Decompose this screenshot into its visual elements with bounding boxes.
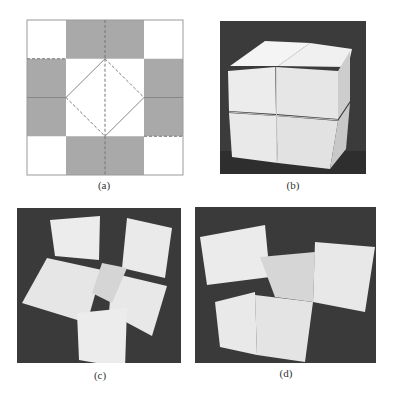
shaded-cell: [144, 59, 183, 98]
cube: [50, 216, 100, 260]
mountain-fold: [105, 98, 144, 137]
photo-closed-cube: [220, 21, 366, 174]
panel-b-photo: [220, 21, 366, 174]
shaded-cell: [66, 136, 105, 175]
panel-c-label: (c): [80, 369, 120, 381]
panel-a-label: (a): [84, 179, 124, 191]
crease-pattern: [26, 19, 184, 176]
valley-fold: [66, 98, 105, 137]
shaded-cell: [27, 59, 66, 98]
panel-d-label: (d): [266, 367, 306, 379]
cube-front-face: [229, 113, 278, 163]
cube: [255, 295, 313, 362]
cube-front-face: [228, 67, 276, 114]
panel-c-photo: [17, 208, 181, 363]
cube: [215, 292, 257, 355]
cube: [77, 308, 127, 363]
shaded-cell: [105, 136, 144, 175]
cube: [122, 218, 172, 278]
shaded-cell: [144, 98, 183, 137]
valley-fold: [105, 59, 144, 98]
mountain-fold: [66, 59, 105, 98]
shaded-cell: [105, 20, 144, 59]
panel-a-diagram: [26, 19, 184, 176]
shaded-cell: [27, 98, 66, 137]
cube-front-face: [276, 116, 338, 169]
cube: [313, 242, 375, 312]
photo-unfolding-2: [195, 207, 376, 363]
panel-d-photo: [195, 207, 376, 363]
photo-unfolding-1: [17, 208, 181, 363]
cube-front-face: [276, 67, 338, 119]
shaded-cell: [66, 20, 105, 59]
panel-b-label: (b): [273, 179, 313, 191]
